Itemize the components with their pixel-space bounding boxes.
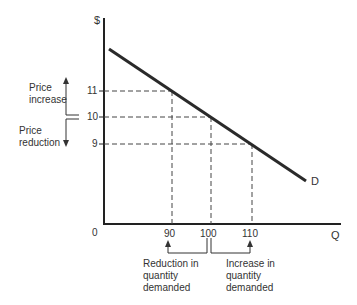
origin-label: 0 bbox=[92, 227, 98, 239]
x-tick-label: 100 bbox=[200, 228, 217, 239]
arrow-up-icon bbox=[165, 240, 171, 247]
demand-curve bbox=[109, 49, 306, 181]
y-tick-label: 11 bbox=[87, 85, 97, 96]
guide-lines bbox=[104, 91, 252, 224]
y-axis-label: $ bbox=[94, 14, 100, 26]
price-reduction-label: Price reduction bbox=[19, 125, 64, 149]
x-tick-label: 90 bbox=[164, 228, 175, 239]
price-bracket bbox=[66, 83, 79, 141]
demand-label: D bbox=[311, 175, 319, 187]
y-tick-label: 9 bbox=[92, 138, 98, 149]
x-tick-label: 110 bbox=[242, 228, 258, 239]
y-tick-label: 10 bbox=[87, 111, 98, 122]
price-increase-label: Price increase bbox=[29, 82, 64, 106]
quantity-bracket bbox=[168, 238, 250, 253]
reduction-qty-label: Reduction in quantity demanded bbox=[143, 258, 199, 294]
increase-qty-label: Increase in quantity demanded bbox=[226, 258, 275, 294]
x-axis-label: Q bbox=[331, 229, 340, 241]
arrow-up-icon bbox=[247, 240, 253, 247]
